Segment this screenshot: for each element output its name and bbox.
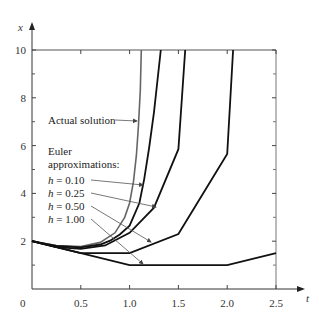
- y-tick-label: 6: [21, 140, 27, 152]
- annotation-arrow: [91, 193, 156, 207]
- annotation-label: h = 1.00: [48, 213, 85, 225]
- y-tick-label: 8: [21, 92, 27, 104]
- x-tick-label: 1.5: [172, 297, 186, 309]
- y-tick-label: 10: [15, 44, 27, 56]
- y-tick-label: 2: [21, 235, 27, 247]
- euler-approximation-chart: 0.51.01.52.02.5246810 Actual solutionEul…: [0, 0, 319, 320]
- y-axis-label: x: [17, 21, 23, 33]
- annotation-label: Euler: [48, 145, 72, 157]
- x-tick-label: 1.0: [123, 297, 137, 309]
- annotation-label: approximations:: [48, 158, 120, 170]
- annotation-label: h = 0.50: [48, 200, 85, 212]
- curve-h-1-00: [32, 241, 276, 265]
- x-tick-label: 0.5: [74, 297, 88, 309]
- origin-label: 0: [20, 297, 26, 309]
- annotation-label: Actual solution: [48, 114, 116, 126]
- x-axis-label: t: [306, 292, 310, 304]
- annotation-label: h = 0.25: [48, 187, 85, 199]
- x-tick-label: 2.5: [269, 297, 283, 309]
- annotation-arrow: [91, 180, 143, 185]
- x-tick-label: 2.0: [220, 297, 234, 309]
- plot-frame: [32, 24, 303, 289]
- annotation-label: h = 0.10: [48, 174, 85, 186]
- y-tick-label: 4: [21, 187, 27, 199]
- annotation-arrow: [115, 120, 137, 121]
